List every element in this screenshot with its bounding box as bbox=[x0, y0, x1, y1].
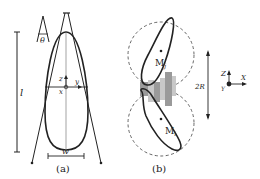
panel-a: l θ z y x bbox=[14, 13, 102, 174]
upper-body-label: Mj bbox=[155, 58, 166, 70]
length-label: l bbox=[20, 87, 23, 98]
body-outline bbox=[45, 32, 88, 150]
caption-a: (a) bbox=[56, 163, 70, 174]
angle-label: θ bbox=[40, 36, 45, 45]
width-label: w bbox=[62, 147, 69, 156]
lower-body-label: Mi bbox=[165, 126, 176, 137]
upper-center-dot bbox=[160, 50, 163, 53]
frame-y-label: Y bbox=[221, 85, 226, 92]
panel-b: Mj Mi 2R Z X Y (b) bbox=[128, 18, 247, 174]
frame-z-label: Z bbox=[220, 70, 226, 78]
frame-x-label: X bbox=[240, 74, 247, 82]
distance-marker: 2R bbox=[194, 50, 210, 120]
lower-center-dot bbox=[160, 118, 163, 121]
distance-label: 2R bbox=[194, 83, 205, 91]
angle-inset: θ bbox=[37, 16, 49, 45]
figure: l θ z y x bbox=[0, 0, 260, 179]
width-marker: w bbox=[48, 147, 84, 159]
body-frame: z y x bbox=[45, 75, 88, 96]
caption-b: (b) bbox=[152, 163, 166, 174]
world-frame: Z X Y bbox=[220, 70, 247, 92]
axis-x-label: x bbox=[59, 88, 63, 96]
axis-y-label: y bbox=[74, 78, 80, 86]
axis-z-label: z bbox=[58, 75, 63, 83]
length-marker: l bbox=[14, 32, 23, 152]
